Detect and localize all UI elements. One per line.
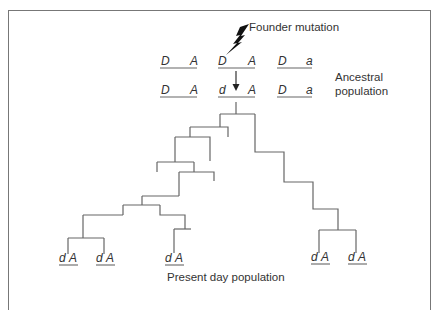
arrow-down-icon: [233, 71, 240, 91]
svg-text:A: A: [247, 54, 256, 68]
svg-text:A: A: [174, 251, 183, 265]
haplotype: d A: [311, 250, 330, 264]
haplotype: d A: [59, 251, 78, 265]
haplotype: D A: [160, 83, 198, 97]
present-day-label: Present day population: [167, 271, 285, 283]
haplotype: D a: [277, 83, 313, 97]
svg-text:A: A: [320, 250, 329, 264]
ancestral-label-line1: Ancestral: [335, 71, 383, 83]
svg-text:D: D: [278, 54, 287, 68]
svg-text:A: A: [357, 250, 366, 264]
svg-text:D: D: [161, 54, 170, 68]
svg-text:A: A: [105, 251, 114, 265]
founder-mutation-label: Founder mutation: [249, 21, 339, 33]
ancestral-label-line2: population: [335, 85, 388, 97]
svg-text:d: d: [311, 250, 318, 264]
svg-text:a: a: [306, 83, 313, 97]
svg-text:d: d: [348, 250, 355, 264]
svg-text:d: d: [96, 251, 103, 265]
svg-text:A: A: [68, 251, 77, 265]
haplotype: d A: [96, 251, 115, 265]
haplotype: D A: [160, 54, 198, 68]
haplotype: d A: [165, 251, 184, 265]
svg-text:d: d: [59, 251, 66, 265]
svg-text:a: a: [306, 54, 313, 68]
svg-text:d: d: [165, 251, 172, 265]
haplotype: D a: [277, 54, 313, 68]
lightning-bolt-icon: [226, 24, 249, 55]
present-day-row: d A d A d A d A d A: [59, 250, 367, 265]
svg-text:D: D: [218, 54, 227, 68]
svg-text:d: d: [219, 83, 226, 97]
svg-text:A: A: [189, 54, 198, 68]
svg-text:A: A: [247, 83, 256, 97]
svg-text:D: D: [278, 83, 287, 97]
haplotype: D A: [218, 54, 256, 68]
ancestral-row-before: D A D A D a: [160, 54, 313, 68]
haplotype: d A: [348, 250, 367, 264]
svg-text:A: A: [189, 83, 198, 97]
svg-text:D: D: [161, 83, 170, 97]
genealogy-tree: [68, 102, 356, 254]
